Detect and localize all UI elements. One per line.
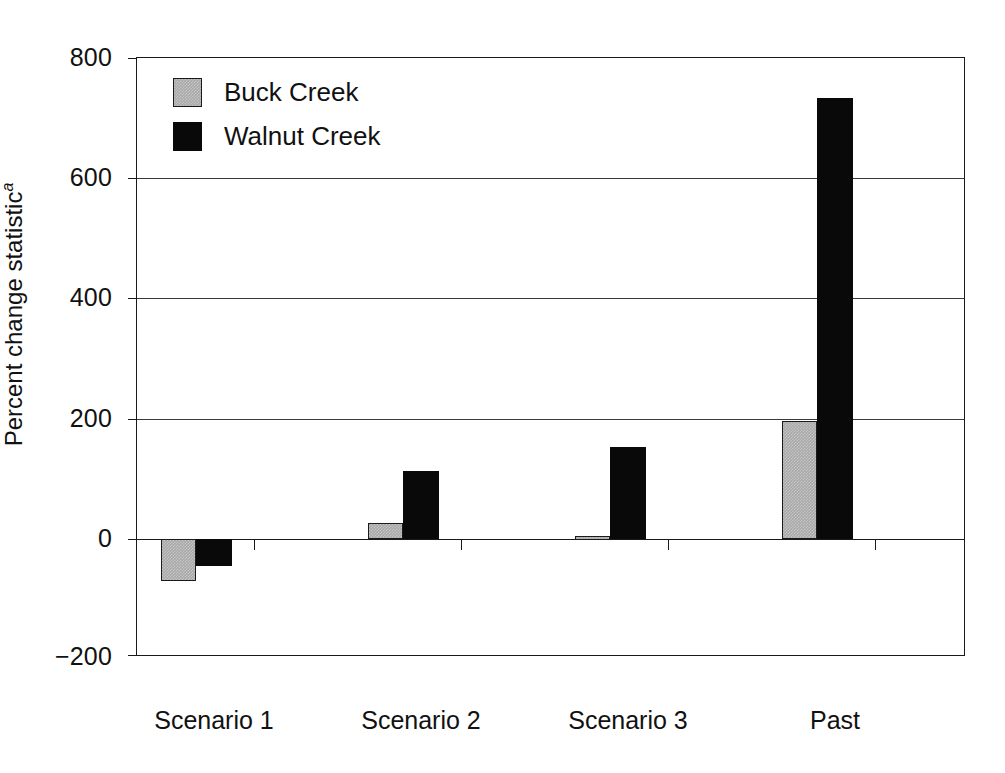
y-tick-label-200: 200 [70, 404, 112, 433]
legend-label-buck-creek: Buck Creek [224, 77, 358, 108]
bar-buck-creek-scenario-3[interactable] [575, 536, 610, 540]
bar-chart: Percent change statistica 800 600 400 20… [0, 0, 1005, 773]
y-tick-label-600: 600 [70, 163, 112, 192]
x-tick-label-scenario-1: Scenario 1 [154, 706, 274, 735]
x-tick-mark-3 [668, 539, 669, 550]
x-tick-mark-2 [461, 539, 462, 550]
bar-buck-creek-past[interactable] [782, 421, 817, 539]
bar-walnut-creek-scenario-3[interactable] [610, 447, 646, 539]
y-tick-label-400: 400 [70, 283, 112, 312]
y-axis-tick-labels: 800 600 400 200 0 −200 [0, 0, 125, 773]
x-tick-mark-1 [254, 539, 255, 550]
y-tick-mark-0 [128, 539, 137, 540]
y-tick-mark-800 [128, 58, 137, 59]
y-tick-mark-400 [128, 298, 137, 299]
legend-item-buck-creek[interactable]: Buck Creek [173, 72, 381, 112]
gridline-zero [137, 539, 964, 540]
bar-buck-creek-scenario-2[interactable] [368, 523, 403, 539]
y-tick-mark-neg200 [128, 655, 137, 656]
bar-walnut-creek-scenario-1[interactable] [196, 539, 232, 566]
legend-label-walnut-creek: Walnut Creek [224, 121, 381, 152]
y-tick-mark-600 [128, 178, 137, 179]
x-tick-mark-4 [875, 539, 876, 550]
bar-buck-creek-scenario-1[interactable] [161, 539, 196, 581]
y-tick-label-800: 800 [70, 43, 112, 72]
legend-swatch-walnut-creek-icon [173, 122, 202, 151]
legend-item-walnut-creek[interactable]: Walnut Creek [173, 116, 381, 156]
x-tick-label-scenario-2: Scenario 2 [361, 706, 481, 735]
x-tick-label-past: Past [810, 706, 860, 735]
y-tick-label-neg200: −200 [55, 642, 112, 671]
y-tick-mark-200 [128, 419, 137, 420]
plot-area: Buck Creek Walnut Creek [136, 57, 965, 656]
legend-swatch-buck-creek-icon [173, 78, 202, 107]
legend: Buck Creek Walnut Creek [173, 72, 381, 160]
bar-walnut-creek-past[interactable] [817, 98, 853, 539]
y-tick-label-0: 0 [98, 524, 112, 553]
x-tick-label-scenario-3: Scenario 3 [568, 706, 688, 735]
bar-walnut-creek-scenario-2[interactable] [403, 471, 439, 539]
